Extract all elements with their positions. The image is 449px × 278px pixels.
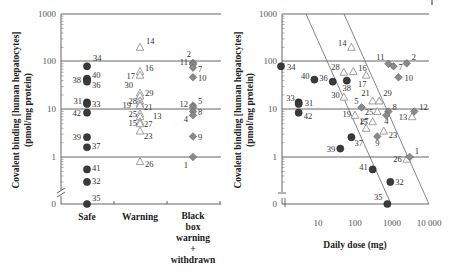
warning-marker-icon bbox=[136, 43, 144, 50]
right-xtick-1000: 1000 bbox=[383, 218, 402, 228]
point-label: 19 bbox=[343, 109, 352, 119]
point-label: 33 bbox=[92, 99, 101, 109]
point-label: 30 bbox=[331, 90, 340, 100]
point-label: 29 bbox=[383, 88, 392, 98]
point-label: 36 bbox=[319, 73, 328, 83]
point-label: 4 bbox=[384, 116, 389, 126]
left-panel: Covalent binding [human hepatocytes] (pm… bbox=[11, 9, 221, 265]
point-label: 25 bbox=[365, 107, 374, 117]
category-bbw-4: + bbox=[190, 244, 195, 254]
point-label: 13 bbox=[399, 112, 408, 122]
point-label: 21 bbox=[144, 102, 153, 112]
safe-marker-icon bbox=[83, 166, 90, 173]
point-label: 35 bbox=[374, 192, 383, 202]
point-label: 40 bbox=[301, 71, 310, 81]
warning-marker-icon bbox=[340, 93, 348, 100]
safe-marker-icon bbox=[295, 109, 302, 116]
point-label: 23 bbox=[144, 131, 153, 141]
right-y-axis bbox=[278, 14, 286, 207]
left-ytick-1000: 1000 bbox=[38, 9, 57, 19]
category-bbw-3: warning bbox=[176, 233, 210, 243]
left-ytick-10: 10 bbox=[47, 104, 57, 114]
point-label: 26 bbox=[393, 154, 402, 164]
point-label: 41 bbox=[359, 162, 368, 172]
warning-marker-icon bbox=[350, 68, 358, 75]
point-label: 9 bbox=[375, 138, 379, 148]
point-label: 1 bbox=[415, 146, 419, 156]
point-label: 12 bbox=[180, 99, 189, 109]
bbw-marker-icon bbox=[395, 73, 403, 81]
warning-marker-icon bbox=[348, 43, 356, 50]
point-label: 30 bbox=[125, 80, 134, 90]
right-ytick-1: 1 bbox=[273, 152, 278, 162]
left-gridlines bbox=[61, 14, 221, 204]
point-label: 7 bbox=[399, 62, 403, 72]
safe-marker-icon bbox=[369, 166, 376, 173]
warning-marker-icon bbox=[369, 97, 377, 104]
right-gridlines bbox=[282, 14, 429, 204]
safe-marker-icon bbox=[295, 100, 302, 107]
left-ytick-0: 0 bbox=[52, 199, 57, 209]
point-label: 4 bbox=[184, 114, 189, 124]
point-label: 34 bbox=[287, 62, 296, 72]
point-label: 31 bbox=[305, 98, 314, 108]
safe-marker-icon bbox=[329, 78, 336, 85]
point-label: 31 bbox=[74, 96, 83, 106]
warning-marker-icon bbox=[380, 127, 388, 134]
point-label: 21 bbox=[361, 88, 370, 98]
right-ylabel-line1: Covalent binding [human hepatocytes] bbox=[233, 31, 243, 188]
point-label: 15 bbox=[129, 118, 138, 128]
warning-marker-icon bbox=[136, 127, 144, 134]
warning-marker-icon bbox=[136, 158, 144, 165]
safe-marker-icon bbox=[387, 178, 394, 185]
left-ytick-100: 100 bbox=[43, 56, 57, 66]
point-label: 32 bbox=[395, 177, 404, 187]
bbw-marker-icon bbox=[189, 73, 197, 81]
warning-marker-icon bbox=[369, 118, 377, 125]
safe-marker-icon bbox=[277, 63, 284, 70]
point-label: 39 bbox=[73, 132, 82, 142]
point-label: 16 bbox=[145, 63, 154, 73]
point-label: 42 bbox=[73, 108, 82, 118]
point-label: 12 bbox=[419, 102, 428, 112]
point-label: 1 bbox=[184, 160, 188, 170]
point-label: 35 bbox=[92, 193, 101, 203]
right-xtick-10: 10 bbox=[314, 218, 324, 228]
left-ylabel-line2: (pmol/mg protein) bbox=[23, 73, 34, 147]
safe-marker-icon bbox=[83, 78, 90, 85]
right-ytick-1000: 1000 bbox=[259, 9, 278, 19]
point-label: 14 bbox=[146, 36, 155, 46]
safe-marker-icon bbox=[83, 63, 90, 70]
point-label: 37 bbox=[92, 141, 101, 151]
point-label: 9 bbox=[198, 132, 202, 142]
warning-marker-icon bbox=[340, 68, 348, 75]
right-xlabel: Daily dose (mg) bbox=[323, 240, 386, 251]
bbw-marker-icon bbox=[189, 153, 197, 161]
point-label: 27 bbox=[144, 119, 153, 129]
point-label: 10 bbox=[405, 73, 414, 83]
point-label: 10 bbox=[198, 73, 207, 83]
point-label: 40 bbox=[92, 70, 101, 80]
point-label: 37 bbox=[354, 138, 363, 148]
point-label: 34 bbox=[93, 53, 102, 63]
point-label: 41 bbox=[92, 163, 101, 173]
safe-marker-icon bbox=[83, 100, 90, 107]
point-label: 16 bbox=[358, 63, 367, 73]
bbw-marker-icon bbox=[189, 133, 197, 141]
left-ytick-1: 1 bbox=[52, 152, 57, 162]
point-label: 11 bbox=[376, 52, 384, 62]
point-label: 26 bbox=[145, 159, 154, 169]
point-label: 36 bbox=[92, 80, 101, 90]
point-label: 14 bbox=[338, 38, 347, 48]
category-bbw-1: Black bbox=[181, 211, 205, 221]
safe-marker-icon bbox=[384, 200, 391, 207]
category-bbw-5: withdrawn bbox=[171, 255, 216, 265]
point-label: 33 bbox=[286, 93, 295, 103]
right-ylabel-line2: (pmol/mg protein) bbox=[245, 73, 256, 147]
chart-figure: Covalent binding [human hepatocytes] (pm… bbox=[0, 0, 449, 278]
point-label: 13 bbox=[153, 111, 162, 121]
point-label: 2 bbox=[412, 52, 416, 62]
safe-marker-icon bbox=[311, 76, 318, 83]
point-label: 38 bbox=[73, 75, 82, 85]
category-warning: Warning bbox=[122, 212, 158, 222]
